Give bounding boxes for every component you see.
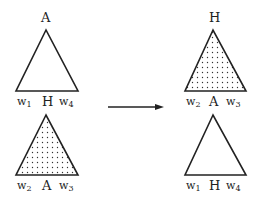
left-top-apex-label: A — [41, 11, 50, 24]
left-top-triangle — [16, 30, 78, 91]
right-bottom-triangle — [185, 115, 246, 175]
diagram-graphics — [0, 0, 260, 203]
diagram: A w1 H w4 w2 A w3 H w2 A w3 w1 H w4 — [0, 0, 260, 203]
right-top-leaf-1: w2 — [186, 96, 201, 109]
left-top-leaf-3: w4 — [59, 96, 74, 109]
left-bottom-leaf-1: w2 — [17, 180, 32, 193]
right-bottom-leaf-2: H — [209, 179, 220, 192]
right-top-leaf-3: w3 — [226, 96, 241, 109]
right-top-triangle — [185, 30, 246, 91]
left-top-leaf-2: H — [42, 95, 53, 108]
right-bottom-leaf-3: w4 — [226, 180, 241, 193]
left-bottom-triangle — [16, 115, 78, 175]
left-bottom-leaf-3: w3 — [59, 180, 74, 193]
right-top-leaf-2: A — [209, 95, 218, 108]
arrow-icon — [108, 104, 164, 110]
left-bottom-leaf-2: A — [42, 179, 51, 192]
right-bottom-leaf-1: w1 — [186, 180, 201, 193]
left-top-leaf-1: w1 — [17, 96, 32, 109]
right-top-apex-label: H — [209, 11, 220, 24]
